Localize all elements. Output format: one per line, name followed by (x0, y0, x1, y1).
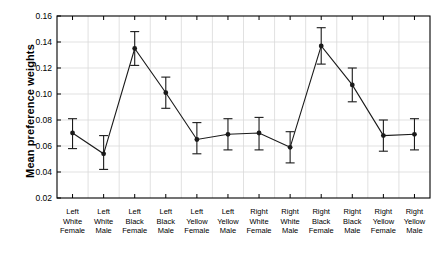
data-point-marker (194, 137, 199, 142)
data-point-marker (319, 44, 324, 49)
x-axis-tick-label-line: Right (392, 207, 436, 217)
data-point-marker (70, 131, 75, 136)
x-axis-tick-label: RightYellowMale (392, 207, 436, 236)
x-axis-tick-label-line: Male (392, 226, 436, 236)
x-axis-tick-label-line: Yellow (392, 217, 436, 227)
data-point-marker (350, 83, 355, 88)
data-point-marker (163, 90, 168, 95)
data-point-marker (412, 132, 417, 137)
data-point-marker (101, 151, 106, 156)
chart-figure: Mean preference weights 0.020.040.060.08… (0, 0, 437, 269)
data-point-marker (226, 132, 231, 137)
data-point-marker (288, 145, 293, 150)
data-point-marker (132, 46, 137, 51)
data-point-marker (381, 133, 386, 138)
data-point-marker (257, 131, 262, 136)
